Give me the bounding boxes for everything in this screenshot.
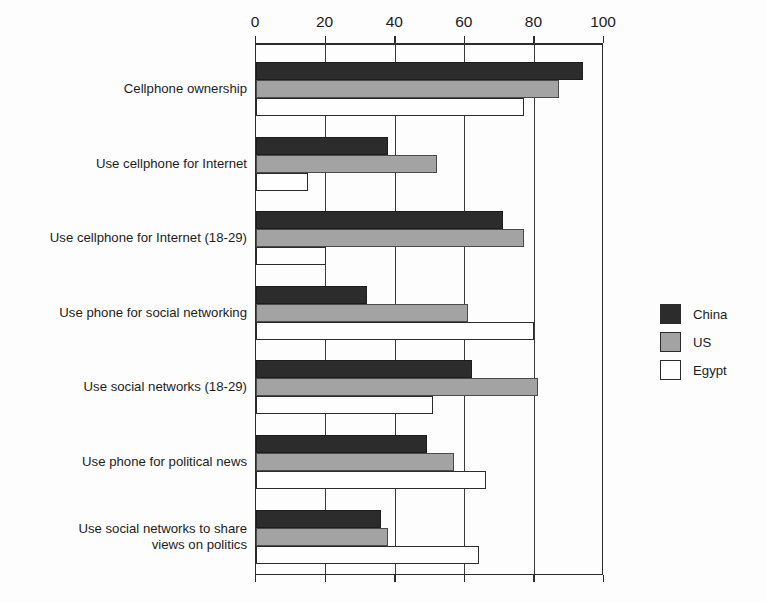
x-tick-bottom-60 xyxy=(464,575,465,582)
bar-egypt-2 xyxy=(256,247,326,265)
x-tick-100 xyxy=(603,36,604,43)
x-tick-40 xyxy=(394,36,395,43)
bar-china-5 xyxy=(256,435,427,453)
gridline-80 xyxy=(534,43,535,574)
x-tick-label-0: 0 xyxy=(251,13,260,31)
x-tick-label-20: 20 xyxy=(316,13,333,31)
category-label-6: Use social networks to share views on po… xyxy=(11,521,247,553)
category-label-5: Use phone for political news xyxy=(11,454,247,470)
x-tick-label-40: 40 xyxy=(386,13,403,31)
x-tick-label-80: 80 xyxy=(525,13,542,31)
legend-item-china[interactable]: China xyxy=(660,300,760,328)
x-tick-20 xyxy=(325,36,326,43)
category-label-3: Use phone for social networking xyxy=(11,305,247,321)
x-tick-label-60: 60 xyxy=(455,13,472,31)
category-label-group: Cellphone ownershipUse cellphone for Int… xyxy=(0,0,247,603)
legend-label-china: China xyxy=(693,307,727,322)
x-tick-60 xyxy=(464,36,465,43)
legend-swatch-china-icon xyxy=(660,304,681,324)
bar-us-3 xyxy=(256,304,468,322)
legend-swatch-egypt-icon xyxy=(660,360,681,380)
bar-us-6 xyxy=(256,528,388,546)
bar-china-1 xyxy=(256,137,388,155)
category-label-1: Use cellphone for Internet xyxy=(11,156,247,172)
bar-china-6 xyxy=(256,510,381,528)
bar-china-4 xyxy=(256,360,472,378)
bar-china-3 xyxy=(256,286,367,304)
x-tick-bottom-80 xyxy=(533,575,534,582)
bar-us-5 xyxy=(256,453,454,471)
bar-egypt-0 xyxy=(256,98,524,116)
bar-us-2 xyxy=(256,229,524,247)
bar-china-0 xyxy=(256,62,583,80)
x-tick-bottom-40 xyxy=(394,575,395,582)
x-tick-0 xyxy=(255,36,256,43)
bar-egypt-6 xyxy=(256,546,479,564)
grouped-bar-chart: 020406080100 Cellphone ownershipUse cell… xyxy=(0,0,767,603)
category-label-4: Use social networks (18-29) xyxy=(11,379,247,395)
category-label-0: Cellphone ownership xyxy=(11,81,247,97)
x-tick-bottom-20 xyxy=(325,575,326,582)
bar-egypt-5 xyxy=(256,471,486,489)
legend-item-us[interactable]: US xyxy=(660,328,760,356)
x-tick-bottom-0 xyxy=(255,575,256,582)
chart-legend: ChinaUSEgypt xyxy=(660,300,760,384)
legend-swatch-us-icon xyxy=(660,332,681,352)
plot-area xyxy=(255,43,603,575)
bar-us-1 xyxy=(256,155,437,173)
category-label-2: Use cellphone for Internet (18-29) xyxy=(11,230,247,246)
x-tick-80 xyxy=(533,36,534,43)
x-axis-bottom xyxy=(255,575,603,576)
bar-us-0 xyxy=(256,80,559,98)
bar-china-2 xyxy=(256,211,503,229)
bar-egypt-1 xyxy=(256,173,308,191)
bar-us-4 xyxy=(256,378,538,396)
legend-label-us: US xyxy=(693,335,711,350)
bar-egypt-4 xyxy=(256,396,433,414)
bar-egypt-3 xyxy=(256,322,534,340)
x-tick-label-100: 100 xyxy=(590,13,616,31)
legend-label-egypt: Egypt xyxy=(693,363,727,378)
legend-item-egypt[interactable]: Egypt xyxy=(660,356,760,384)
x-tick-bottom-100 xyxy=(603,575,604,582)
